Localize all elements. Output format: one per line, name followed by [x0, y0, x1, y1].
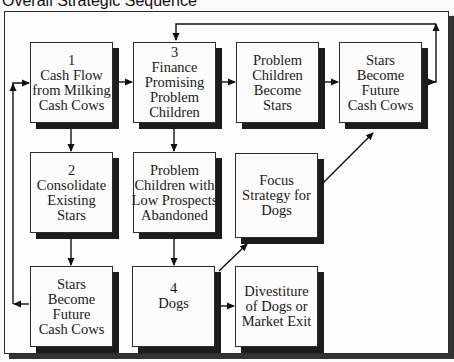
- arrow-loop-right-up: [428, 24, 436, 82]
- arrow-loop-top-back: [176, 24, 436, 40]
- arrow-focus-to-sbfcc: [322, 133, 373, 184]
- arrow-left-loop-in: [13, 83, 29, 84]
- arrow-b4-to-focus: [219, 244, 247, 271]
- connector-arrows: [0, 0, 454, 362]
